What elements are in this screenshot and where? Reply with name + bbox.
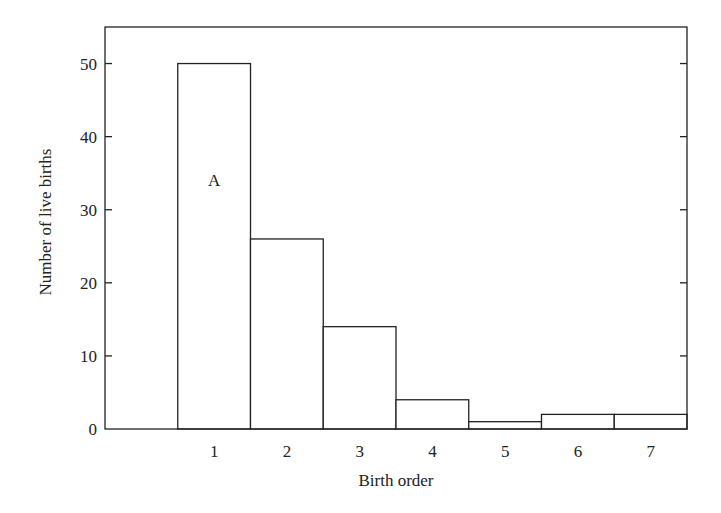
x-axis-title: Birth order <box>358 471 433 490</box>
bar-7 <box>614 414 687 429</box>
x-tick-label: 6 <box>574 442 583 461</box>
bar-6 <box>542 414 615 429</box>
x-tick-label: 2 <box>283 442 292 461</box>
y-tick-label: 20 <box>80 274 97 293</box>
bar-1 <box>178 64 251 429</box>
x-tick-label: 1 <box>210 442 219 461</box>
x-tick-label: 3 <box>355 442 364 461</box>
x-tick-label: 5 <box>501 442 510 461</box>
bar-5 <box>469 422 542 429</box>
bars-group <box>178 64 687 429</box>
x-axis-ticks: 1234567 <box>210 442 656 461</box>
y-tick-label: 30 <box>80 201 97 220</box>
x-tick-label: 4 <box>428 442 437 461</box>
y-tick-label: 40 <box>80 128 97 147</box>
bar-annotation: A <box>208 171 221 190</box>
bar-2 <box>251 239 324 429</box>
y-axis-title: Number of live births <box>36 149 55 296</box>
bar-3 <box>323 327 396 429</box>
y-tick-label: 0 <box>89 420 98 439</box>
histogram-chart: 01020304050 1234567 A Birth order Number… <box>0 0 721 513</box>
bar-4 <box>396 400 469 429</box>
y-tick-label: 50 <box>80 55 97 74</box>
y-tick-label: 10 <box>80 347 97 366</box>
x-tick-label: 7 <box>646 442 655 461</box>
